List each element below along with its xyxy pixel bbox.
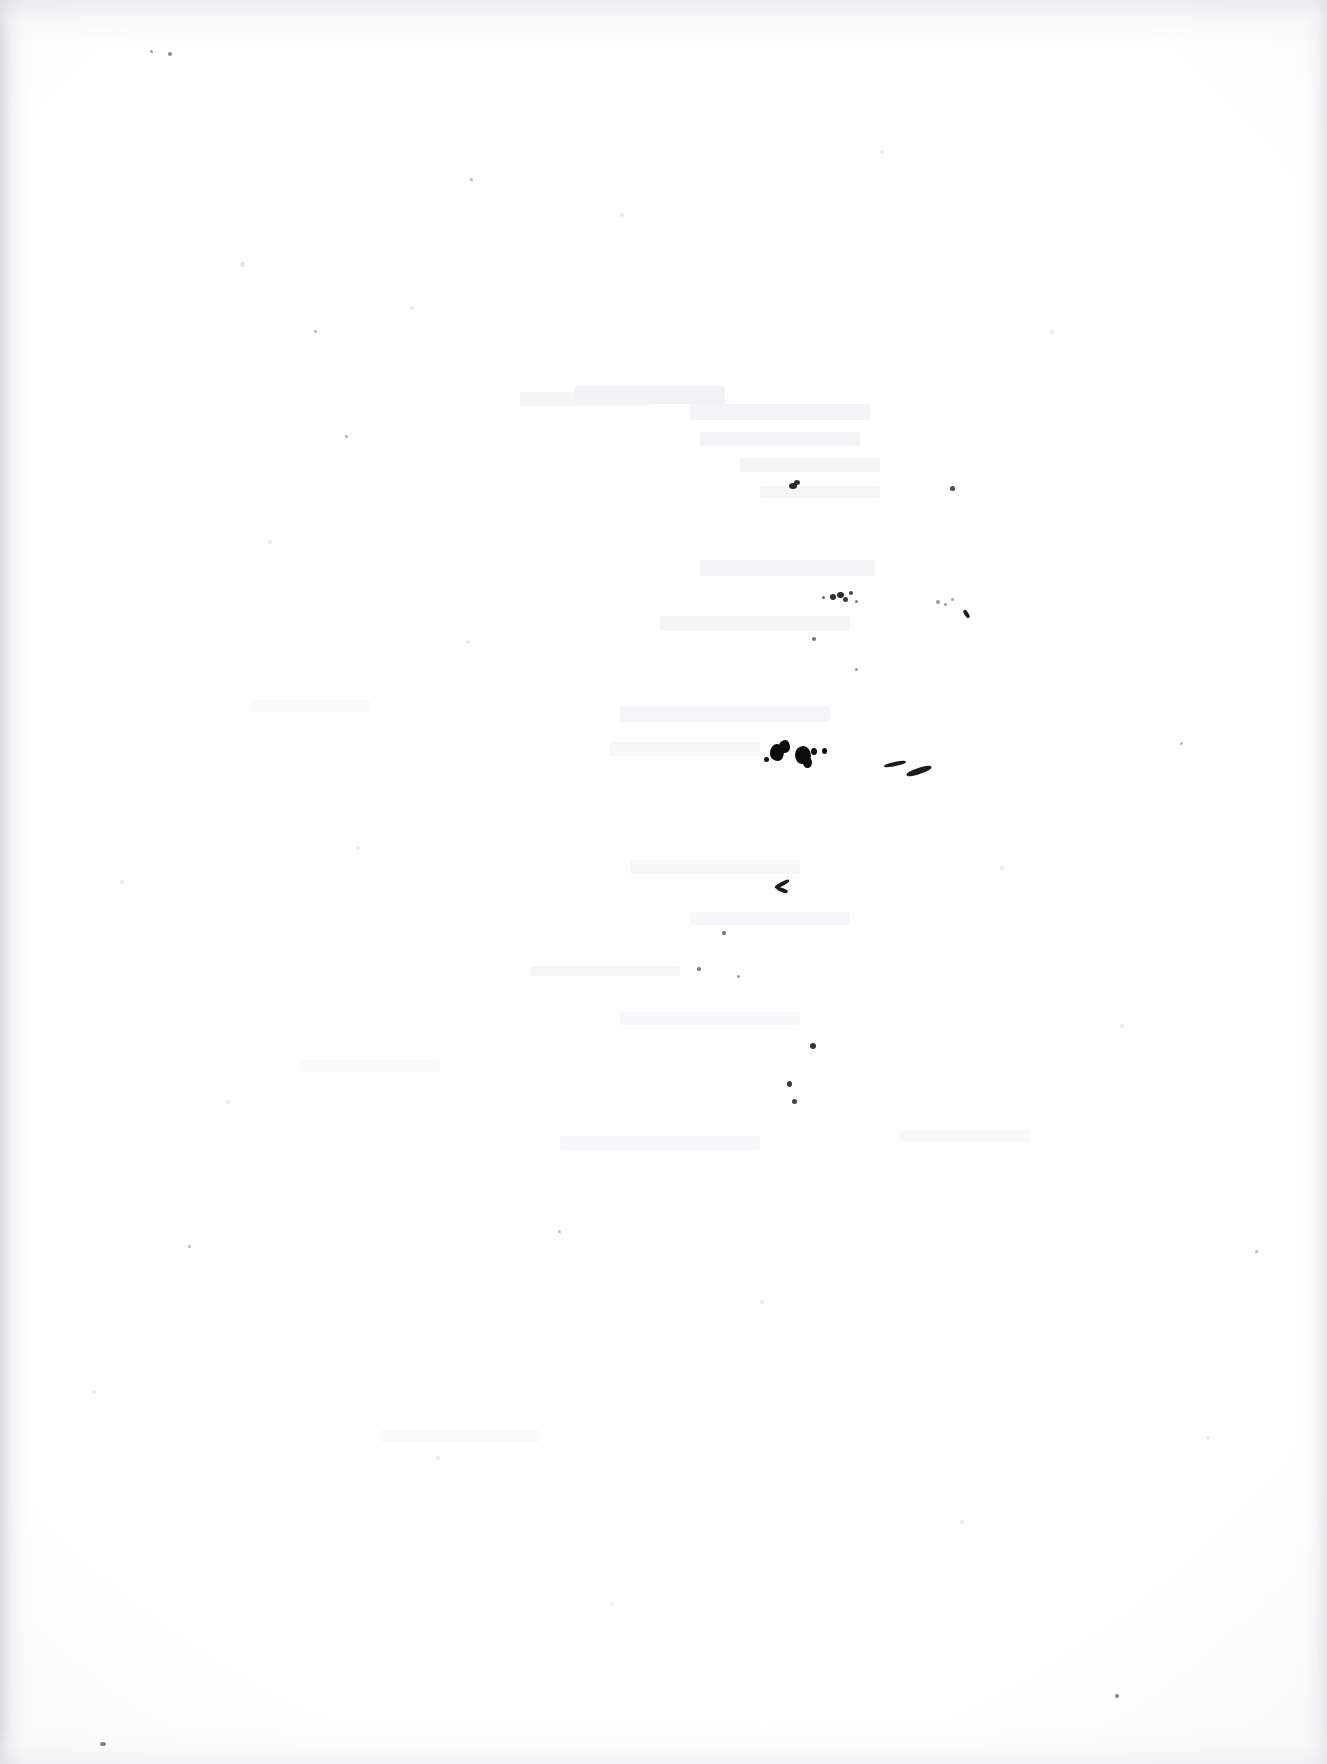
paper-background (0, 0, 1327, 1764)
scanned-document-page (0, 0, 1327, 1764)
